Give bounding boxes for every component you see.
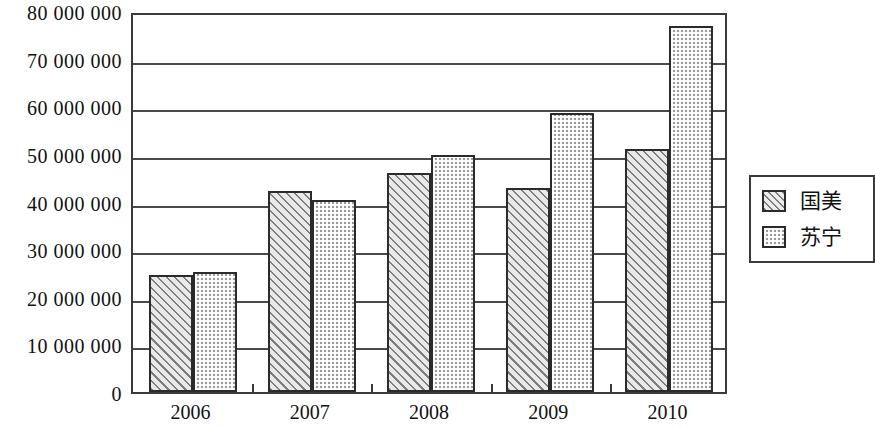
legend-item-0[interactable]: 国美 bbox=[762, 186, 842, 216]
y-tick-label: 10 000 000 bbox=[0, 336, 122, 356]
bar bbox=[149, 275, 193, 392]
x-tickmark bbox=[252, 384, 254, 393]
x-tick-label: 2006 bbox=[171, 400, 211, 424]
x-tick-label: 2010 bbox=[647, 400, 687, 424]
legend-item-label: 国美 bbox=[800, 190, 842, 212]
bar bbox=[387, 173, 431, 392]
legend-item-label: 苏宁 bbox=[800, 226, 842, 248]
y-tick-label: 70 000 000 bbox=[0, 51, 122, 71]
bar bbox=[669, 26, 713, 392]
bar bbox=[431, 155, 475, 392]
y-tick-label: 30 000 000 bbox=[0, 241, 122, 261]
plot-inner bbox=[133, 15, 725, 392]
bar bbox=[193, 272, 237, 392]
y-tick-label: 50 000 000 bbox=[0, 146, 122, 166]
x-tick-label: 2009 bbox=[528, 400, 568, 424]
x-tick-label: 2008 bbox=[409, 400, 449, 424]
gridline bbox=[133, 110, 725, 112]
legend: 国美 苏宁 bbox=[749, 175, 875, 263]
x-tick-label: 2007 bbox=[290, 400, 330, 424]
y-tick-label: 80 000 000 bbox=[0, 3, 122, 23]
bar bbox=[625, 149, 669, 392]
x-tickmark bbox=[371, 384, 373, 393]
x-tickmark bbox=[610, 384, 612, 393]
bar bbox=[268, 191, 312, 392]
y-tick-label: 0 bbox=[0, 384, 122, 404]
legend-item-1[interactable]: 苏宁 bbox=[762, 222, 842, 252]
legend-swatch-checkered-dots-icon bbox=[762, 226, 786, 248]
x-tickmark bbox=[491, 384, 493, 393]
bar bbox=[550, 113, 594, 392]
x-axis: 20062007200820092010 bbox=[131, 400, 727, 428]
gridline bbox=[133, 63, 725, 65]
plot-area bbox=[131, 13, 727, 394]
legend-swatch-diagonal-hatch-icon bbox=[762, 190, 786, 212]
y-tick-label: 60 000 000 bbox=[0, 98, 122, 118]
y-tick-label: 40 000 000 bbox=[0, 194, 122, 214]
bar bbox=[506, 188, 550, 392]
y-tick-label: 20 000 000 bbox=[0, 289, 122, 309]
bar bbox=[312, 200, 356, 392]
y-axis: 80 000 00070 000 00060 000 00050 000 000… bbox=[0, 0, 122, 428]
